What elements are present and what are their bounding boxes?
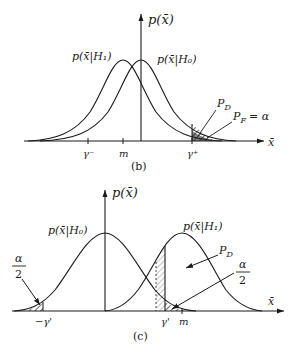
- curve-h1-label-c: p(x̄|H₁): [183, 220, 223, 234]
- curve-h0-label-c: p(x̄|H₀): [48, 224, 88, 238]
- curve-h0-b: [40, 60, 236, 141]
- alpha-right-leader: [172, 273, 234, 309]
- alpha-left-leader: [22, 279, 40, 305]
- pf-label-b: PF= α: [232, 110, 270, 125]
- pd-leader-b: [198, 110, 216, 136]
- pd-leader-c: [186, 255, 218, 268]
- x-axis-label-b: x̄: [268, 136, 275, 149]
- curve-h1-label-b: p(x̄|H₁): [72, 50, 112, 64]
- tick-gamma-minus: γ⁻: [83, 148, 94, 159]
- panel-b: p(x̄) x̄ p(x̄|H₁) p(x̄|H₀) γ⁻ m γ⁺ PD PF…: [24, 12, 275, 173]
- alpha-half-left-label: α 2: [12, 252, 26, 281]
- y-axis-label-b: p(x̄): [148, 12, 174, 27]
- pd-shaded-region-c: [156, 247, 165, 311]
- tick-m-b: m: [119, 148, 128, 159]
- tick-neg-gamma-prime: −γ': [35, 316, 52, 327]
- y-axis-label-c: p(x̄): [112, 185, 138, 200]
- alpha-half-right-label: α 2: [236, 258, 250, 287]
- tick-gamma-plus: γ⁺: [187, 148, 198, 159]
- pd-label-b: PD: [216, 97, 231, 112]
- pd-label-c: PD: [218, 244, 233, 259]
- tick-gamma-prime: γ': [161, 316, 170, 327]
- hypothesis-test-diagram: p(x̄) x̄ p(x̄|H₁) p(x̄|H₀) γ⁻ m γ⁺ PD PF…: [0, 0, 293, 353]
- svg-text:2: 2: [15, 268, 22, 281]
- tick-m-c: m: [179, 316, 188, 327]
- svg-text:α: α: [239, 258, 247, 271]
- panel-c: p(x̄) x̄ p(x̄|H₀) p(x̄|H₁) −γ' γ' m PD α…: [12, 185, 284, 343]
- pf-leader-b: [207, 122, 232, 138]
- curve-h0-label-b: p(x̄|H₀): [157, 53, 197, 67]
- caption-b: (b): [131, 160, 147, 173]
- caption-c: (c): [133, 330, 148, 343]
- svg-text:α: α: [15, 252, 23, 265]
- x-axis-label-c: x̄: [268, 295, 275, 308]
- svg-text:2: 2: [239, 274, 246, 287]
